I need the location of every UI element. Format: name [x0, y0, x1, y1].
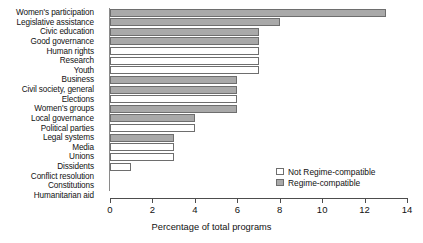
- x-axis-line: [110, 198, 407, 199]
- bar-row: [110, 47, 407, 57]
- bar-row: [110, 66, 407, 76]
- category-label: Youth: [0, 66, 98, 76]
- category-label: Women's groups: [0, 104, 98, 114]
- bar: [110, 134, 174, 142]
- bar: [110, 124, 195, 132]
- bar-row: [110, 114, 407, 124]
- x-axis-tick-label: 4: [192, 204, 197, 215]
- bar-row: [110, 124, 407, 134]
- bar: [110, 153, 174, 161]
- x-axis-title: Percentage of total programs: [0, 222, 423, 232]
- x-axis-tick: [365, 198, 366, 203]
- bar-row: [110, 152, 407, 162]
- bar-row: [110, 8, 407, 18]
- category-label: Human rights: [0, 47, 98, 57]
- category-label-column: Women's participationLegislative assista…: [0, 8, 98, 191]
- x-axis-tick-label: 6: [235, 204, 240, 215]
- bar-row: [110, 95, 407, 105]
- x-axis-tick: [110, 198, 111, 203]
- bar: [110, 18, 280, 26]
- x-axis-tick: [322, 198, 323, 203]
- bar: [110, 47, 259, 55]
- x-axis-tick-label: 0: [107, 204, 112, 215]
- bar: [110, 163, 131, 171]
- category-label: Civic education: [0, 27, 98, 37]
- bar: [110, 28, 259, 36]
- x-axis-tick: [237, 198, 238, 203]
- category-label: Women's participation: [0, 8, 98, 18]
- category-label: Conflict resolution: [0, 172, 98, 182]
- category-label: Dissidents: [0, 162, 98, 172]
- category-label: Legislative assistance: [0, 18, 98, 28]
- category-label: Local governance: [0, 114, 98, 124]
- bar: [110, 86, 237, 94]
- category-label: Humanitarian aid: [0, 191, 98, 201]
- bar-row: [110, 37, 407, 47]
- bar: [110, 95, 237, 103]
- category-label: Civil society, general: [0, 85, 98, 95]
- bar-row: [110, 104, 407, 114]
- bar-row: [110, 143, 407, 153]
- x-axis-tick-label: 14: [402, 204, 413, 215]
- x-axis-tick: [195, 198, 196, 203]
- x-axis-tick-label: 10: [317, 204, 328, 215]
- bar: [110, 105, 237, 113]
- bar: [110, 114, 195, 122]
- bar: [110, 37, 259, 45]
- bar-row: [110, 27, 407, 37]
- x-axis-tick-label: 2: [150, 204, 155, 215]
- bar: [110, 143, 174, 151]
- legend-swatch-icon-regime-compatible: [276, 179, 284, 186]
- legend-label: Not Regime-compatible: [288, 167, 376, 177]
- category-label: Media: [0, 143, 98, 153]
- category-label: Good governance: [0, 37, 98, 47]
- legend-label: Regime-compatible: [288, 178, 360, 188]
- category-label: Business: [0, 75, 98, 85]
- legend: Not Regime-compatible Regime-compatible: [276, 166, 376, 188]
- legend-item-regime-compatible: Regime-compatible: [276, 177, 376, 188]
- plot-area: [110, 8, 407, 191]
- category-label: Constitutions: [0, 181, 98, 191]
- legend-swatch-icon-not-regime-compatible: [276, 168, 284, 175]
- x-axis-tick-label: 8: [277, 204, 282, 215]
- category-label: Research: [0, 56, 98, 66]
- x-axis-tick: [280, 198, 281, 203]
- legend-item-not-regime-compatible: Not Regime-compatible: [276, 166, 376, 177]
- bar-row: [110, 75, 407, 85]
- bar: [110, 57, 259, 65]
- bar-row: [110, 191, 407, 201]
- category-label: Legal systems: [0, 133, 98, 143]
- category-label: Unions: [0, 152, 98, 162]
- bar: [110, 9, 386, 17]
- category-label: Political parties: [0, 124, 98, 134]
- bar-row: [110, 18, 407, 28]
- bar-chart: Women's participationLegislative assista…: [0, 0, 423, 243]
- x-axis-tick: [152, 198, 153, 203]
- bar-row: [110, 85, 407, 95]
- bar: [110, 66, 259, 74]
- x-axis-tick-label: 12: [359, 204, 370, 215]
- x-axis-tick: [407, 198, 408, 203]
- category-label: Elections: [0, 95, 98, 105]
- bar-row: [110, 56, 407, 66]
- bar: [110, 76, 237, 84]
- bar-row: [110, 133, 407, 143]
